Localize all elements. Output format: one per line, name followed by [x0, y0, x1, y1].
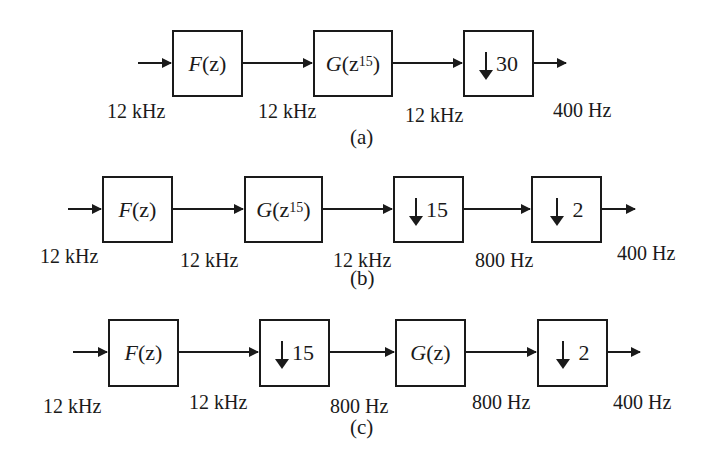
- filter-f-block: F(z): [172, 30, 243, 97]
- decimation-factor: 30: [496, 51, 518, 77]
- rate-label: 12 kHz: [180, 249, 238, 272]
- block-function-name: G: [410, 340, 426, 366]
- decimation-factor: 15: [292, 340, 314, 366]
- rate-label: 12 kHz: [258, 100, 316, 123]
- block-function-name: F: [119, 197, 132, 223]
- downsampler-block: 15: [259, 319, 330, 387]
- caption-b: (b): [350, 266, 375, 291]
- downsampler-block: 15: [393, 176, 464, 243]
- block-exponent: 15: [359, 54, 373, 70]
- block-function-name: G: [326, 51, 342, 77]
- block-argument: (z: [342, 51, 359, 77]
- rate-label: 12 kHz: [189, 391, 247, 414]
- block-argument: (z): [426, 340, 450, 366]
- filter-g-block: G(z): [395, 319, 466, 387]
- block-argument: (z: [272, 197, 289, 223]
- block-close-paren: ): [373, 51, 380, 77]
- caption-c: (c): [350, 415, 373, 440]
- block-argument: (z): [138, 340, 162, 366]
- block-function-name: F: [189, 51, 202, 77]
- decimation-factor: 15: [426, 197, 448, 223]
- downsampler-block: 30: [463, 30, 534, 97]
- rate-label: 800 Hz: [472, 391, 530, 414]
- block-function-name: G: [256, 197, 272, 223]
- down-arrow-icon: [409, 198, 423, 226]
- block-close-paren: ): [303, 197, 310, 223]
- rate-label: 400 Hz: [553, 99, 611, 122]
- filter-f-block: F(z): [102, 176, 173, 243]
- rate-label: 800 Hz: [475, 249, 533, 272]
- rate-label: 12 kHz: [40, 245, 98, 268]
- downsampler-block: 2: [537, 319, 608, 387]
- down-arrow-icon: [275, 341, 289, 369]
- block-exponent: 15: [289, 200, 303, 216]
- down-arrow-icon: [550, 198, 564, 226]
- rate-label: 400 Hz: [613, 391, 671, 414]
- down-arrow-icon: [556, 341, 570, 369]
- decimation-factor: 2: [573, 197, 584, 223]
- rate-label: 12 kHz: [107, 100, 165, 123]
- downsampler-block: 2: [531, 176, 602, 243]
- caption-a: (a): [350, 125, 373, 150]
- rate-label: 400 Hz: [617, 242, 675, 265]
- block-argument: (z): [132, 197, 156, 223]
- decimation-factor: 2: [579, 340, 590, 366]
- filter-f-block: F(z): [108, 319, 179, 387]
- rate-label: 12 kHz: [43, 395, 101, 418]
- down-arrow-icon: [479, 52, 493, 80]
- filter-g-block: G(z15): [244, 176, 323, 243]
- block-argument: (z): [202, 51, 226, 77]
- filter-g-block: G(z15): [313, 30, 393, 97]
- rate-label: 12 kHz: [405, 104, 463, 127]
- block-function-name: F: [125, 340, 138, 366]
